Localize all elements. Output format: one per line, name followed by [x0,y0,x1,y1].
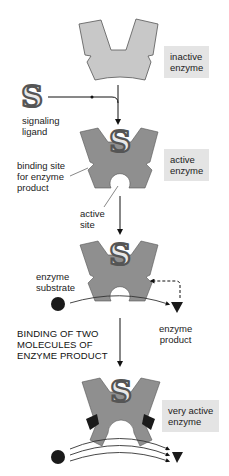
label-line: active [170,154,203,165]
binding-caption: BINDING OF TWO MOLECULES OF ENZYME PRODU… [17,328,108,361]
binding-site-label: binding site for enzyme product [17,160,65,193]
enzyme-substrate-label: enzyme substrate [36,271,75,293]
inactive-enzyme-shape [79,19,158,80]
active-site-label: active site [80,208,105,230]
binding-site-pointer [70,168,88,176]
label-line: site [80,219,105,230]
label-line: product [17,182,65,193]
ligand-arrow [48,97,118,103]
label-line: substrate [36,282,75,293]
label-line: for enzyme [17,171,65,182]
label-line: binding site [17,160,65,171]
caption-line: MOLECULES OF [17,339,108,350]
label-line: enzyme [159,323,192,334]
label-line: signaling [22,115,60,126]
signaling-ligand-label: signaling ligand [22,115,60,137]
label-line: very active [168,405,213,416]
active-enzyme-with-substrate [80,237,158,301]
substrate-molecule [51,297,65,311]
label-line: enzyme [168,416,213,427]
product-molecule-2 [172,452,183,463]
very-active-enzyme-shape [82,374,160,446]
signaling-ligand-icon [21,79,43,114]
label-line: inactive [170,51,203,62]
enzyme-product-label: enzyme product [159,323,192,345]
caption-line: BINDING OF TWO [17,328,108,339]
reaction-arrows-multiple [70,439,168,462]
substrate-molecule-2 [51,450,65,464]
active-enzyme-shape [80,124,158,188]
inactive-enzyme-label: inactive enzyme [164,46,209,78]
label-line: active [80,208,105,219]
label-line: enzyme [36,271,75,282]
label-line: enzyme [170,165,203,176]
active-site-pointer [104,186,118,207]
label-line: product [159,334,192,345]
feedback-arrow [152,281,180,298]
label-line: enzyme [170,62,203,73]
very-active-enzyme-label: very active enzyme [162,400,219,432]
product-molecule [171,302,183,313]
caption-line: ENZYME PRODUCT [17,350,108,361]
reaction-arrow [70,296,168,304]
active-enzyme-label: active enzyme [164,149,209,181]
label-line: ligand [22,126,60,137]
